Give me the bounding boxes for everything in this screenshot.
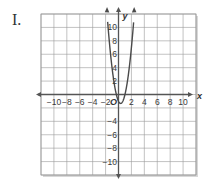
x-tick-label: 8 [168, 97, 173, 107]
y-axis-up-arrow-icon [116, 7, 121, 12]
y-tick-label: −6 [107, 130, 117, 140]
x-tick-label: 2 [129, 97, 134, 107]
x-tick-label: −10 [47, 97, 62, 107]
curve-right-arrow-icon [132, 7, 137, 12]
x-tick-label: 4 [142, 97, 147, 107]
y-tick-label: 8 [112, 36, 117, 46]
y-axis-label: y [122, 11, 129, 21]
x-tick-label: 6 [155, 97, 160, 107]
x-tick-label: −6 [75, 97, 85, 107]
x-tick-label: −8 [62, 97, 72, 107]
coordinate-plane-chart: −10−8−6−4−2246810108642−4−6−8−10Oxy [0, 0, 206, 188]
y-tick-label: 6 [112, 49, 117, 59]
y-tick-label: 4 [112, 63, 117, 73]
y-tick-label: −8 [107, 143, 117, 153]
x-axis-label: x [196, 91, 203, 101]
x-tick-label: 10 [178, 97, 188, 107]
x-tick-label: −4 [88, 97, 98, 107]
curve-left-arrow-icon [105, 7, 110, 13]
y-tick-label: 10 [108, 22, 118, 32]
y-tick-label: 2 [112, 76, 117, 86]
y-tick-label: −4 [107, 116, 117, 126]
x-axis-left-arrow-icon [36, 92, 41, 97]
origin-label: O [110, 97, 117, 107]
y-tick-label: −10 [103, 157, 118, 167]
